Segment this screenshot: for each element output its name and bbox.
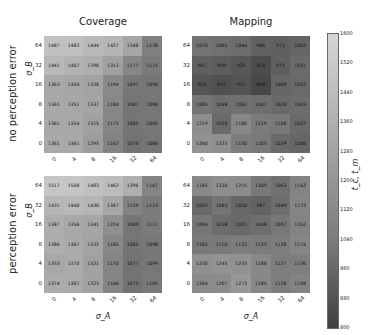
x-tick-label: 16 xyxy=(254,292,268,306)
heatmap-cell: 1390 xyxy=(83,56,103,76)
heatmap-cell: 1207 xyxy=(212,274,232,294)
heatmap-cell: 1224 xyxy=(103,215,123,235)
heatmap-cell: 1028 xyxy=(271,95,291,115)
x-tick-label: 4 xyxy=(67,292,81,306)
x-axis-label: σ_A xyxy=(192,312,310,321)
heatmap-cell: 1180 xyxy=(103,95,123,115)
colorbar-tick-label: 1280 xyxy=(340,148,353,154)
heatmap-cell: 1029 xyxy=(271,134,291,154)
heatmap-cell: 1162 xyxy=(290,176,310,196)
heatmap-cell: 1233 xyxy=(231,254,251,274)
heatmap-cell: 1077 xyxy=(123,254,143,274)
heatmap-cell: 971 xyxy=(271,56,291,76)
heatmap-cell: 1328 xyxy=(83,75,103,95)
y-tick-label: 4 xyxy=(176,260,190,266)
x-tick-label: 4 xyxy=(215,292,229,306)
x-tick-label: 0 xyxy=(195,152,209,166)
heatmap-cell: 1128 xyxy=(271,274,291,294)
heatmap-cell: 1158 xyxy=(290,274,310,294)
y-tick-label: 16 xyxy=(176,221,190,227)
heatmap-cell: 1076 xyxy=(123,134,143,154)
heatmap-cell: 1136 xyxy=(290,254,310,274)
heatmap-cell: 1240 xyxy=(192,134,212,154)
heatmap-cell: 1085 xyxy=(192,95,212,115)
heatmap-cell: 1062 xyxy=(231,95,251,115)
heatmap-cell: 1315 xyxy=(83,114,103,134)
heatmap-cell: 1363 xyxy=(44,75,64,95)
heatmap-cell: 1387 xyxy=(44,215,64,235)
x-tick-label: 4 xyxy=(67,152,81,166)
heatmap-cell: 1354 xyxy=(64,114,84,134)
heatmap-cell: 967 xyxy=(192,56,212,76)
heatmap-cell: 1010 xyxy=(231,196,251,216)
heatmap-cell: 1162 xyxy=(103,134,123,154)
y-tick-label: 8 xyxy=(176,241,190,247)
heatmap-cell: 1386 xyxy=(44,235,64,255)
y-tick-label: 32 xyxy=(28,62,42,68)
heatmap-cell: 1483 xyxy=(64,36,84,56)
heatmap-cell: 1027 xyxy=(290,114,310,134)
y-tick-label: 32 xyxy=(176,202,190,208)
heatmap-cell: 1361 xyxy=(44,134,64,154)
x-tick-label: 32 xyxy=(126,152,140,166)
heatmap-cell: 1159 xyxy=(123,196,143,216)
heatmap-cell: 1295 xyxy=(83,134,103,154)
x-tick-label: 8 xyxy=(234,152,248,166)
heatmap-cell: 1109 xyxy=(251,176,271,196)
heatmap-cell: 1119 xyxy=(251,114,271,134)
heatmap-cell: 1047 xyxy=(251,95,271,115)
heatmap-cell: 1105 xyxy=(192,235,212,255)
y-tick-label: 64 xyxy=(176,42,190,48)
heatmap-cell: 1337 xyxy=(83,95,103,115)
heatmap-cell: 1038 xyxy=(212,215,232,235)
heatmap-cell: 1099 xyxy=(142,254,162,274)
heatmap-cell: 1113 xyxy=(142,196,162,216)
heatmap-cell: 1108 xyxy=(271,114,291,134)
heatmap-cell: 1117 xyxy=(142,215,162,235)
heatmap-cell: 1048 xyxy=(251,215,271,235)
y-tick-label: 0 xyxy=(176,140,190,146)
x-tick-label: 0 xyxy=(47,152,61,166)
heatmap-cell: 1374 xyxy=(44,274,64,294)
heatmap-cell: 1122 xyxy=(231,235,251,255)
y-tick-label: 16 xyxy=(28,81,42,87)
heatmap-panel: 1185122012151109106311621025108310109871… xyxy=(192,176,310,293)
heatmap-cell: 892 xyxy=(212,75,232,95)
heatmap-cell: 1085 xyxy=(123,114,143,134)
y-tick-label: 16 xyxy=(28,221,42,227)
x-tick-label: 8 xyxy=(234,292,248,306)
heatmap-cell: 1483 xyxy=(83,176,103,196)
heatmap-cell: 846 xyxy=(251,75,271,95)
heatmap-cell: 1431 xyxy=(44,196,64,216)
heatmap-cell: 1313 xyxy=(103,56,123,76)
colorbar-tick-label: 1040 xyxy=(340,236,353,242)
heatmap-cell: 1097 xyxy=(271,215,291,235)
heatmap-cell: 1049 xyxy=(271,196,291,216)
heatmap-cell: 1173 xyxy=(290,196,310,216)
heatmap-cell: 1090 xyxy=(142,95,162,115)
heatmap-cell: 1185 xyxy=(103,235,123,255)
heatmap-cell: 1130 xyxy=(231,134,251,154)
heatmap-cell: 1006 xyxy=(290,134,310,154)
heatmap-cell: 1127 xyxy=(271,254,291,274)
heatmap-cell: 1003 xyxy=(290,36,310,56)
heatmap-cell: 1219 xyxy=(192,114,212,134)
heatmap-cell: 1440 xyxy=(64,196,84,216)
heatmap-cell: 925 xyxy=(231,56,251,76)
heatmap-cell: 1138 xyxy=(142,36,162,56)
heatmap-cell: 1185 xyxy=(251,274,271,294)
heatmap-cell: 1508 xyxy=(64,176,84,196)
heatmap-cell: 1095 xyxy=(142,114,162,134)
heatmap-cell: 1185 xyxy=(192,176,212,196)
heatmap-cell: 1517 xyxy=(44,176,64,196)
heatmap-cell: 1174 xyxy=(290,235,310,255)
heatmap-cell: 1128 xyxy=(271,235,291,255)
y-tick-label: 32 xyxy=(28,202,42,208)
heatmap-cell: 1462 xyxy=(103,176,123,196)
heatmap-cell: 1167 xyxy=(142,176,162,196)
heatmap-cell: 1105 xyxy=(251,134,271,154)
x-tick-label: 8 xyxy=(86,292,100,306)
heatmap-cell: 1350 xyxy=(64,75,84,95)
heatmap-cell: 1430 xyxy=(83,196,103,216)
colorbar xyxy=(327,33,339,329)
